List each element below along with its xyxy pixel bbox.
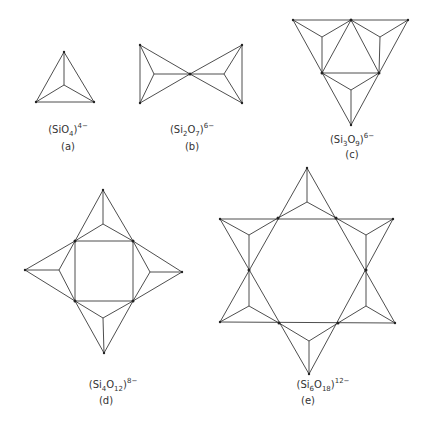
ring-d [24,189,183,354]
ring-e [219,167,396,375]
formula-a: (SiO4)4− [38,122,98,138]
formula-text: O [314,379,322,390]
subscript: 18 [322,385,331,393]
caption-d: (d) [86,395,126,406]
formula-text: (Si [330,134,343,145]
tetrahedron-a [35,51,95,103]
charge: 6− [364,132,374,140]
charge: 4− [77,122,87,130]
charge: 6− [204,122,214,130]
caption-e: (e) [288,395,328,406]
formula-text: (Si [170,124,183,135]
formula-text: (SiO [48,124,69,135]
formula-text: (Si [297,379,310,390]
caption-a: (a) [48,141,88,152]
silicate-structures-diagram [0,0,424,421]
formula-c: (Si3O9)6− [320,132,384,148]
ring-c [292,19,409,127]
charge: 12− [335,377,350,385]
formula-e: (Si6O18)12− [286,377,360,393]
caption-c: (c) [332,149,372,160]
tetrahedra-pair-b [139,44,243,104]
formula-text: O [106,379,114,390]
formula-text: (Si [89,379,102,390]
caption-b: (b) [172,141,212,152]
subscript: 12 [114,385,123,393]
formula-b: (Si2O7)6− [160,122,224,138]
charge: 8− [127,377,137,385]
formula-d: (Si4O12)8− [78,377,148,393]
